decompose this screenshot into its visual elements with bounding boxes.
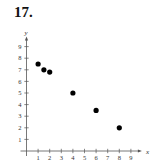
x-tick-label: 7 bbox=[106, 154, 110, 161]
x-tick-label: 4 bbox=[71, 154, 75, 161]
x-tick-label: 5 bbox=[83, 154, 86, 161]
x-tick-label: 3 bbox=[60, 154, 63, 161]
y-axis-label: y bbox=[24, 29, 29, 37]
scatter-chart: 123456789123456789xy bbox=[0, 0, 160, 161]
y-tick-label: 5 bbox=[18, 89, 21, 96]
data-point bbox=[47, 70, 52, 75]
y-tick-label: 7 bbox=[18, 66, 22, 73]
data-point bbox=[41, 67, 46, 72]
y-tick-label: 1 bbox=[18, 136, 21, 143]
y-tick-label: 4 bbox=[18, 101, 22, 108]
data-point bbox=[70, 90, 75, 95]
y-tick-label: 3 bbox=[18, 112, 21, 119]
x-tick-label: 6 bbox=[94, 154, 98, 161]
x-tick-label: 1 bbox=[36, 154, 39, 161]
x-axis-label: x bbox=[145, 148, 150, 156]
y-tick-label: 8 bbox=[18, 54, 21, 61]
x-tick-label: 2 bbox=[48, 154, 51, 161]
y-tick-label: 9 bbox=[18, 43, 21, 50]
data-point bbox=[36, 61, 41, 66]
y-tick-label: 6 bbox=[18, 78, 22, 85]
y-axis-arrow-icon bbox=[25, 37, 28, 41]
x-tick-label: 9 bbox=[129, 154, 132, 161]
x-tick-label: 8 bbox=[118, 154, 121, 161]
x-axis-arrow-icon bbox=[138, 149, 142, 152]
y-tick-label: 2 bbox=[18, 124, 21, 131]
data-point bbox=[117, 125, 122, 130]
data-point bbox=[94, 108, 99, 113]
